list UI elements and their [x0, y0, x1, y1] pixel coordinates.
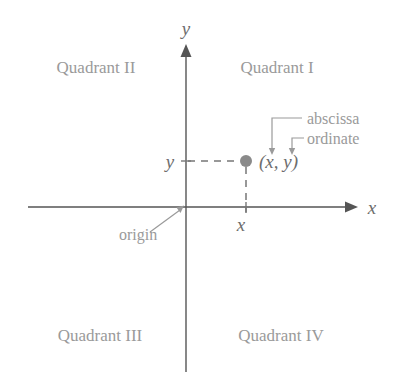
coordinate-plane-diagram: y x Quadrant II Quadrant I Quadrant III …	[0, 0, 400, 382]
y-axis-label: y	[180, 18, 191, 39]
tick-marks-group	[181, 161, 246, 212]
ordinate-label: ordinate	[307, 130, 359, 147]
quadrant-label-2: Quadrant II	[57, 58, 136, 77]
tick-label-x: x	[236, 214, 246, 235]
abscissa-label: abscissa	[307, 110, 359, 127]
x-axis-arrowhead	[345, 202, 358, 213]
quadrant-label-4: Quadrant IV	[238, 326, 324, 345]
quadrant-label-1: Quadrant I	[240, 58, 314, 77]
y-axis-arrowhead	[181, 44, 192, 57]
origin-label: origin	[119, 226, 157, 244]
axes-group	[28, 44, 358, 372]
quadrant-label-3: Quadrant III	[58, 326, 143, 345]
x-axis-label: x	[367, 197, 377, 218]
tick-label-y: y	[164, 151, 175, 172]
coordinate-plane-svg: y x Quadrant II Quadrant I Quadrant III …	[0, 0, 400, 382]
ordinate-leader-line	[292, 138, 304, 148]
abscissa-leader-line	[272, 118, 302, 148]
ordinate-callout-group: ordinate	[289, 130, 360, 155]
plotted-point-dot	[240, 155, 252, 167]
origin-callout-group: origin	[119, 206, 184, 245]
